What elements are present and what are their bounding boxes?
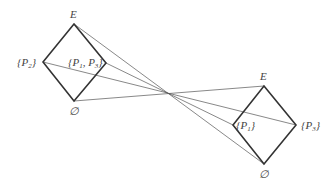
right-top-label: E	[259, 70, 267, 82]
ray-left-bottom-to-right-top	[74, 86, 264, 101]
left-top-label: E	[69, 8, 77, 20]
lattice-diagram: E ∅ {P2} {P1, P3} E ∅ {P1} {P3}	[0, 0, 331, 188]
left-right-label: {P1, P3}	[68, 56, 103, 70]
left-left-label: {P2}	[17, 56, 37, 70]
left-bottom-label: ∅	[69, 105, 79, 117]
right-bottom-label: ∅	[259, 168, 269, 180]
ray-left-right-to-right-left	[106, 63, 233, 125]
right-left-label: {P1}	[236, 119, 256, 133]
right-right-label: {P3}	[301, 119, 321, 133]
